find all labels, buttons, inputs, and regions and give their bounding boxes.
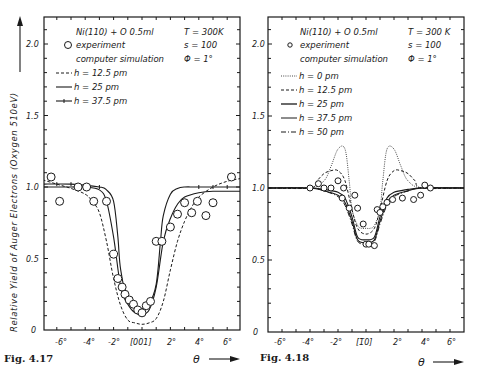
experiment-data-point — [307, 185, 313, 191]
left-figure-caption: Fig. 4.17 — [4, 353, 53, 364]
experiment-data-point — [335, 178, 341, 184]
left-legend-h12: h = 12.5 pm — [74, 68, 127, 78]
left-xtick-label: 6° — [223, 338, 232, 347]
right-xtick-label: -2° — [330, 338, 342, 347]
right-ytick-label: 0 — [253, 328, 258, 337]
right-xtick-label: [1̅0] — [356, 338, 372, 347]
left-s-value: s = 100 — [184, 40, 217, 50]
left-legend-h25: h = 25 pm — [74, 82, 119, 92]
experiment-data-point — [47, 173, 55, 181]
right-simulation-curves — [268, 146, 464, 244]
left-ytick-label: 0.5 — [26, 255, 39, 264]
right-axis-ticks — [268, 17, 464, 332]
right-legend-h37: h = 37.5 pm — [299, 113, 352, 123]
experiment-data-point — [193, 197, 201, 205]
left-ytick-label: 1.5 — [26, 112, 39, 121]
right-legend-experiment-marker-icon — [288, 43, 292, 47]
right-ytick-label: 2.0 — [252, 40, 265, 49]
right-legend-h0: h = 0 pm — [299, 71, 339, 81]
right-figure-caption: Fig. 4.18 — [260, 352, 309, 363]
right-title: Ni(110) + O 0.5ml — [300, 27, 378, 37]
experiment-data-point — [360, 221, 366, 227]
experiment-data-point — [114, 275, 122, 283]
experiment-data-point — [418, 192, 424, 198]
left-xtick-label: -6° — [55, 338, 67, 347]
right-phi-value: Φ = 1° — [408, 54, 437, 64]
experiment-data-point — [188, 209, 196, 217]
simulation-curve-h-0-pm — [268, 146, 464, 229]
left-ytick-label: 0 — [31, 326, 36, 335]
right-xtick-label: 4° — [421, 338, 430, 347]
left-theta-label: θ — [193, 353, 200, 366]
right-xtick-label: -6° — [274, 338, 286, 347]
experiment-data-point — [209, 199, 217, 207]
right-theta-label: θ — [418, 356, 425, 369]
experiment-data-point — [147, 297, 155, 305]
experiment-data-point — [366, 241, 372, 247]
left-xtick-label: 4° — [195, 338, 204, 347]
experiment-data-point — [83, 183, 91, 191]
left-xtick-label: [001] — [130, 338, 152, 347]
left-y-axis-label: Relative Yield of Auger Electrons (Oxyge… — [9, 92, 19, 332]
experiment-data-point — [399, 195, 405, 201]
experiment-data-point — [110, 250, 118, 258]
experiment-data-point — [341, 185, 347, 191]
experiment-data-point — [166, 223, 174, 231]
right-legend-experiment: experiment — [300, 40, 350, 50]
experiment-data-point — [411, 197, 417, 203]
right-ytick-label: 1.5 — [252, 112, 265, 121]
right-plot-frame — [268, 17, 464, 332]
experiment-data-point — [321, 185, 327, 191]
experiment-data-point — [174, 210, 182, 218]
left-chart-panel: 0 0.5 1.0 1.5 2.0 -6° -4° -2° [001] 2° 4… — [4, 16, 241, 366]
left-legend-simulation: computer simulation — [76, 54, 164, 64]
chart-canvas: 0 0.5 1.0 1.5 2.0 -6° -4° -2° [001] 2° 4… — [0, 0, 478, 381]
right-xtick-label: -4° — [302, 338, 314, 347]
experiment-data-point — [138, 309, 146, 317]
experiment-data-point — [202, 212, 210, 220]
experiment-data-point — [315, 181, 321, 187]
experiment-data-point — [427, 185, 433, 191]
left-temperature: T = 300K — [184, 27, 225, 37]
right-legend-simulation: computer simulation — [300, 54, 388, 64]
experiment-data-point — [181, 199, 189, 207]
right-chart-panel: 0 0.5 1.0 1.5 2.0 -6° -4° -2° [1̅0] 2° 4… — [252, 17, 464, 369]
experiment-data-point — [352, 192, 358, 198]
experiment-data-point — [74, 183, 82, 191]
left-experiment-points — [47, 173, 235, 317]
left-legend-experiment-marker-icon — [65, 42, 72, 49]
experiment-data-point — [371, 243, 377, 249]
left-ytick-label: 2.0 — [26, 40, 39, 49]
right-xtick-label: 2° — [393, 338, 402, 347]
experiment-data-point — [56, 197, 64, 205]
right-theta-arrowhead-icon — [454, 359, 464, 365]
left-theta-arrowhead-icon — [230, 356, 240, 362]
simulation-curve-h-25-pm — [268, 188, 464, 240]
right-legend-h12: h = 12.5 pm — [299, 85, 352, 95]
right-ytick-label: 1.0 — [252, 184, 265, 193]
right-ytick-label: 0.5 — [252, 256, 265, 265]
experiment-data-point — [384, 199, 390, 205]
experiment-data-point — [227, 173, 235, 181]
experiment-data-point — [355, 205, 361, 211]
experiment-data-point — [339, 195, 345, 201]
experiment-data-point — [328, 185, 334, 191]
experiment-data-point — [90, 197, 98, 205]
experiment-data-point — [422, 182, 428, 188]
experiment-data-point — [103, 197, 111, 205]
left-legend-experiment: experiment — [76, 40, 126, 50]
left-xtick-label: -4° — [83, 338, 95, 347]
left-ytick-label: 1.0 — [26, 183, 39, 192]
right-s-value: s = 100 — [408, 40, 441, 50]
left-title: Ni(110) + O 0.5ml — [76, 27, 154, 37]
experiment-data-point — [377, 209, 383, 215]
right-temperature: T = 300 K — [408, 27, 452, 37]
left-xtick-label: 2° — [167, 338, 176, 347]
experiment-data-point — [346, 205, 352, 211]
right-xtick-label: 6° — [447, 338, 456, 347]
left-xtick-label: -2° — [108, 338, 120, 347]
y-axis-arrowhead-icon — [17, 16, 23, 26]
right-legend-h50: h = 50 pm — [299, 127, 344, 137]
experiment-data-point — [390, 197, 396, 203]
simulation-curve-h-50-pm — [268, 188, 464, 244]
